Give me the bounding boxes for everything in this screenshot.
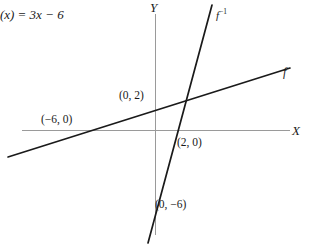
function-inverse-graph-figure: ¹(x) = 3x − 6 Y X f−1 f (0, 2) (−6, 0) (… <box>0 0 311 245</box>
curve-label-f: f <box>283 66 286 78</box>
x-axis-label: X <box>292 124 300 137</box>
y-axis-label: Y <box>150 1 157 14</box>
equation-label: ¹(x) = 3x − 6 <box>0 8 64 21</box>
curve-label-f-inverse-exponent: −1 <box>219 7 227 16</box>
point-label-y-intercept-of-f: (0, 2) <box>119 90 144 102</box>
curve-label-f-inverse: f−1 <box>216 8 227 21</box>
point-label-y-intercept-of-f-inverse: (0, −6) <box>155 199 186 211</box>
point-label-x-intercept-of-f: (−6, 0) <box>41 114 72 126</box>
point-label-x-intercept-of-f-inverse: (2, 0) <box>177 137 202 149</box>
